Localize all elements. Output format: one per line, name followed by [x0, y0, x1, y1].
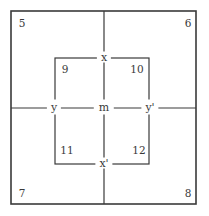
center-label-m: m: [94, 100, 114, 115]
axis-label-y: y: [47, 100, 61, 115]
region-label-bottom-right: 8: [185, 188, 192, 199]
region-label-top-left: 5: [19, 18, 26, 29]
axis-label-y-prime: y': [141, 100, 158, 115]
axis-label-x-prime: x': [95, 158, 112, 169]
inner-label-bottom-right: 12: [132, 145, 145, 156]
diagram: 5 6 7 8 9 10 11 12 x x' y y' m: [0, 0, 209, 216]
region-label-top-right: 6: [185, 18, 192, 29]
inner-label-bottom-left: 11: [60, 145, 73, 156]
inner-label-top-left: 9: [62, 64, 69, 75]
inner-label-top-right: 10: [130, 64, 143, 75]
region-label-bottom-left: 7: [19, 188, 26, 199]
axis-label-x: x: [97, 52, 111, 63]
